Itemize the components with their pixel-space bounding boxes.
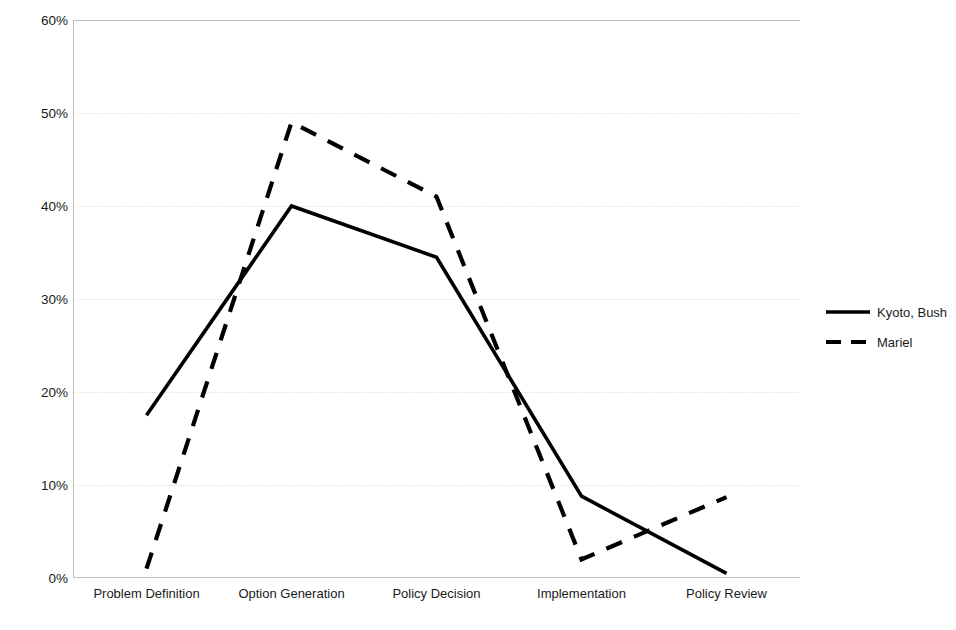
x-axis-tick-label: Policy Review bbox=[686, 586, 767, 601]
series-line-1 bbox=[147, 122, 727, 568]
x-axis-tick-label: Policy Decision bbox=[392, 586, 480, 601]
x-axis-tick-labels: Problem DefinitionOption GenerationPolic… bbox=[73, 586, 800, 616]
chart-canvas bbox=[73, 20, 800, 578]
series-line-0 bbox=[147, 206, 727, 573]
legend-entry-label: Mariel bbox=[877, 335, 912, 350]
chart-figure: Television coverage per stage 0%10%20%30… bbox=[0, 0, 956, 630]
y-axis-tick-label: 0% bbox=[6, 571, 68, 586]
y-axis-tick-label: 30% bbox=[6, 292, 68, 307]
solid-line-swatch bbox=[826, 305, 870, 319]
x-axis-tick-label: Problem Definition bbox=[93, 586, 199, 601]
y-axis-tick-label: 60% bbox=[6, 13, 68, 28]
legend-entry: Kyoto, Bush bbox=[826, 297, 951, 327]
legend-entry-label: Kyoto, Bush bbox=[877, 305, 947, 320]
x-axis-tick-label: Implementation bbox=[537, 586, 626, 601]
x-axis-tick-label: Option Generation bbox=[238, 586, 344, 601]
y-axis-tick-label: 50% bbox=[6, 106, 68, 121]
y-axis-tick-labels: 0%10%20%30%40%50%60% bbox=[0, 0, 68, 630]
dashed-line-swatch bbox=[826, 335, 870, 349]
y-axis-tick-label: 10% bbox=[6, 478, 68, 493]
y-axis-tick-label: 20% bbox=[6, 385, 68, 400]
plot-area bbox=[73, 20, 800, 578]
chart-legend: Kyoto, BushMariel bbox=[826, 297, 951, 357]
legend-entry: Mariel bbox=[826, 327, 951, 357]
y-axis-tick-label: 40% bbox=[6, 199, 68, 214]
